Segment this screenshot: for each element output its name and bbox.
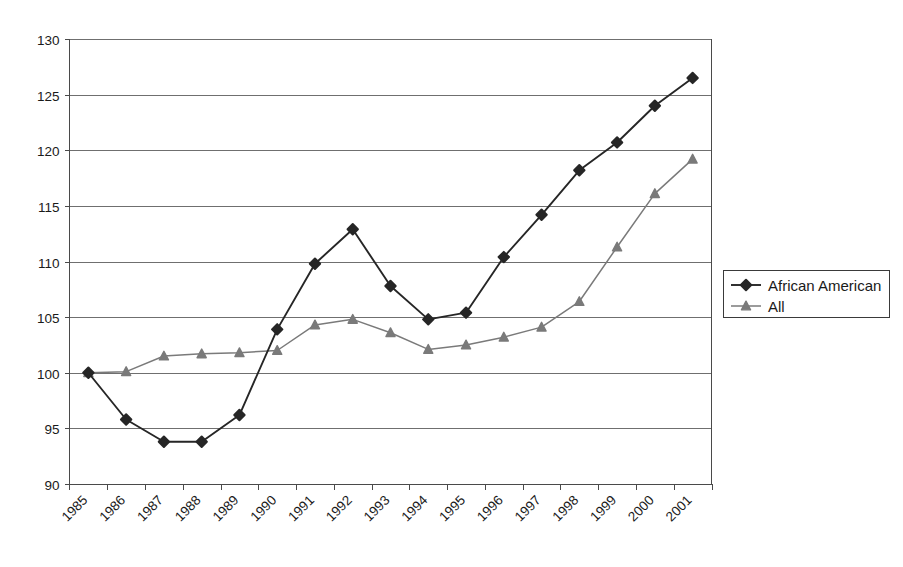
data-point-marker (537, 322, 546, 331)
data-point-marker (688, 154, 697, 163)
series-all (84, 154, 697, 376)
data-point-marker (461, 307, 471, 317)
series-line (88, 78, 692, 442)
y-tick-label-115: 115 (38, 200, 60, 215)
x-tick-label-1998: 1998 (550, 493, 582, 525)
y-tick-label-110: 110 (38, 256, 60, 271)
line-chart: 9095100105110115120125130 19851986198719… (0, 0, 903, 567)
chart-page: 9095100105110115120125130 19851986198719… (0, 0, 903, 567)
x-tick-label-1986: 1986 (96, 493, 128, 525)
y-tick-label-130: 130 (37, 33, 60, 48)
x-tick-label-1985: 1985 (59, 493, 91, 525)
y-tick-label-125: 125 (37, 89, 60, 104)
x-tick-label-1990: 1990 (247, 493, 279, 525)
x-tick-labels: 1985198619871988198919901991199219931994… (59, 484, 713, 524)
x-tick-label-1988: 1988 (172, 493, 204, 525)
series-line (88, 159, 692, 373)
chart-legend: African AmericanAll (724, 271, 890, 318)
gridlines (70, 40, 712, 485)
x-tick-label-1997: 1997 (512, 493, 544, 525)
x-tick-label-1994: 1994 (399, 492, 431, 524)
data-point-marker (348, 315, 357, 324)
y-tick-label-90: 90 (44, 478, 59, 493)
y-tick-labels: 9095100105110115120125130 (37, 33, 70, 493)
y-tick-label-105: 105 (37, 311, 60, 326)
x-tick-label-1995: 1995 (436, 493, 468, 525)
data-series (83, 73, 698, 447)
x-tick-label-1991: 1991 (285, 493, 317, 525)
x-tick-label-1993: 1993 (361, 493, 393, 525)
x-tick-label-1987: 1987 (134, 493, 166, 525)
data-point-marker (272, 324, 282, 334)
x-tick-label-2000: 2000 (625, 493, 657, 525)
data-point-marker (159, 437, 169, 447)
x-tick-label-1999: 1999 (587, 493, 619, 525)
legend-label-all: All (768, 298, 785, 315)
x-tick-label-1989: 1989 (210, 493, 242, 525)
x-tick-label-1992: 1992 (323, 493, 355, 525)
y-tick-label-95: 95 (44, 422, 59, 437)
y-tick-label-120: 120 (37, 144, 60, 159)
x-tick-label-2001: 2001 (663, 493, 695, 525)
x-tick-label-1996: 1996 (474, 493, 506, 525)
y-tick-label-100: 100 (37, 367, 60, 382)
legend-label-african-american: African American (768, 277, 881, 294)
series-african-american (83, 73, 698, 447)
